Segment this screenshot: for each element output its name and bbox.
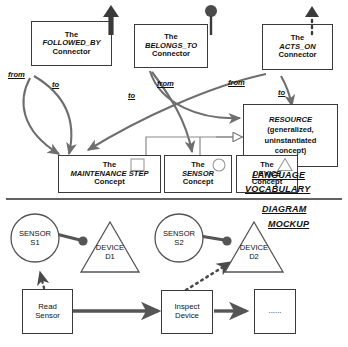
- resource-line1: RESOURCE: [269, 115, 312, 125]
- sensor-s1-line1: SENSOR: [14, 229, 56, 238]
- label-followed-by-to: to: [52, 80, 59, 89]
- ball-endpoint-d1-icon: [78, 236, 87, 245]
- connector-box-acts-on[interactable]: The ACTS_ON Connector: [262, 24, 333, 70]
- sensor-s2-label: SENSOR S2: [158, 229, 200, 247]
- edge-followed-by-from: [24, 78, 59, 154]
- process-box-ellipsis[interactable]: ......: [254, 289, 296, 334]
- device-d2-line1: DEVICE: [233, 243, 275, 252]
- resource-line3: uninstantiated: [265, 136, 317, 146]
- edge-inspect-device-acts-on-d2: [186, 262, 231, 290]
- device-d1-line2: D1: [89, 252, 131, 261]
- sensor-s2-line2: S2: [158, 238, 200, 247]
- edge-read-sensor-acts-on-s1: [40, 272, 44, 288]
- device-d1-label: DEVICE D1: [89, 243, 131, 261]
- square-icon: [130, 158, 146, 176]
- section-label-vocabulary-line1: LANGUAGE: [252, 170, 305, 180]
- label-acts-on-from: from: [228, 78, 245, 87]
- device-d2-line2: D2: [233, 252, 275, 261]
- process-box-read-sensor[interactable]: Read Sensor: [22, 289, 73, 334]
- sensor-s1-line2: S1: [14, 238, 56, 247]
- device-d2-label: DEVICE D2: [233, 243, 275, 261]
- section-label-mockup-line1: DIAGRAM: [262, 204, 306, 214]
- label-acts-on-to: to: [278, 88, 285, 97]
- connector-acts-on-line3: Connector: [279, 51, 317, 60]
- label-belongs-to-to: to: [128, 91, 135, 100]
- concept-maintenance-line3: Concept: [94, 178, 124, 187]
- ball-endpoint-d2-icon: [222, 236, 231, 245]
- section-label-vocabulary-line2: VOCABULARY: [245, 184, 310, 194]
- connector-followed-by-line3: Connector: [53, 48, 91, 57]
- ellipsis-step-line1: ......: [269, 307, 282, 316]
- label-followed-by-from: from: [8, 70, 25, 79]
- diagram-canvas: The FOLLOWED_BY Connector The BELONGS_TO…: [0, 0, 348, 347]
- resource-line2: (generalized,: [267, 125, 313, 135]
- connector-box-followed-by[interactable]: The FOLLOWED_BY Connector: [31, 21, 112, 66]
- sensor-s1-label: SENSOR S1: [14, 229, 56, 247]
- solid-arrow-up-icon: [101, 4, 121, 40]
- connector-box-belongs-to[interactable]: The BELONGS_TO Connector: [134, 24, 208, 68]
- concept-sensor-line3: Concept: [183, 178, 213, 187]
- pin-circle-icon: [203, 4, 219, 40]
- label-belongs-to-from: from: [157, 79, 174, 88]
- process-box-inspect-device[interactable]: Inspect Device: [161, 290, 213, 334]
- dotted-arrow-up-icon: [303, 4, 321, 42]
- connector-belongs-to-line3: Connector: [152, 50, 190, 59]
- inspect-device-line2: Device: [175, 312, 199, 321]
- sensor-s2-line1: SENSOR: [158, 229, 200, 238]
- read-sensor-line2: Sensor: [35, 312, 60, 321]
- section-label-mockup-line2: MOCKUP: [268, 219, 309, 229]
- device-d1-line1: DEVICE: [89, 243, 131, 252]
- circle-icon: [212, 158, 226, 176]
